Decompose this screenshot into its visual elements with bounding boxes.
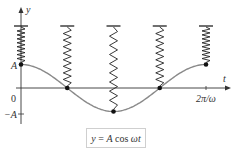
t-axis-arrowhead [225,86,231,91]
neg-amplitude-label: −A [4,109,18,120]
formula-eq: = [96,133,107,144]
amplitude-label: A [10,60,18,71]
mass-point [204,62,209,67]
origin-label: 0 [11,93,16,104]
spring-compressed [202,27,210,63]
springs-group [14,26,213,110]
spring-equilibrium [63,27,71,86]
mass-point [19,62,24,67]
period-label: 2π/ω [196,93,216,104]
mass-point [157,86,162,91]
formula-func: cos [113,133,131,144]
spring-equilibrium [156,27,164,86]
formula-box: y = A cos ωt [86,128,146,148]
formula-arg: ωt [131,133,141,144]
spring-stretched [110,27,118,110]
mass-point [111,109,116,114]
mass-point [65,86,70,91]
y-axis-arrowhead [19,7,24,13]
y-axis-label: y [25,4,31,15]
t-axis-label: t [223,73,226,84]
